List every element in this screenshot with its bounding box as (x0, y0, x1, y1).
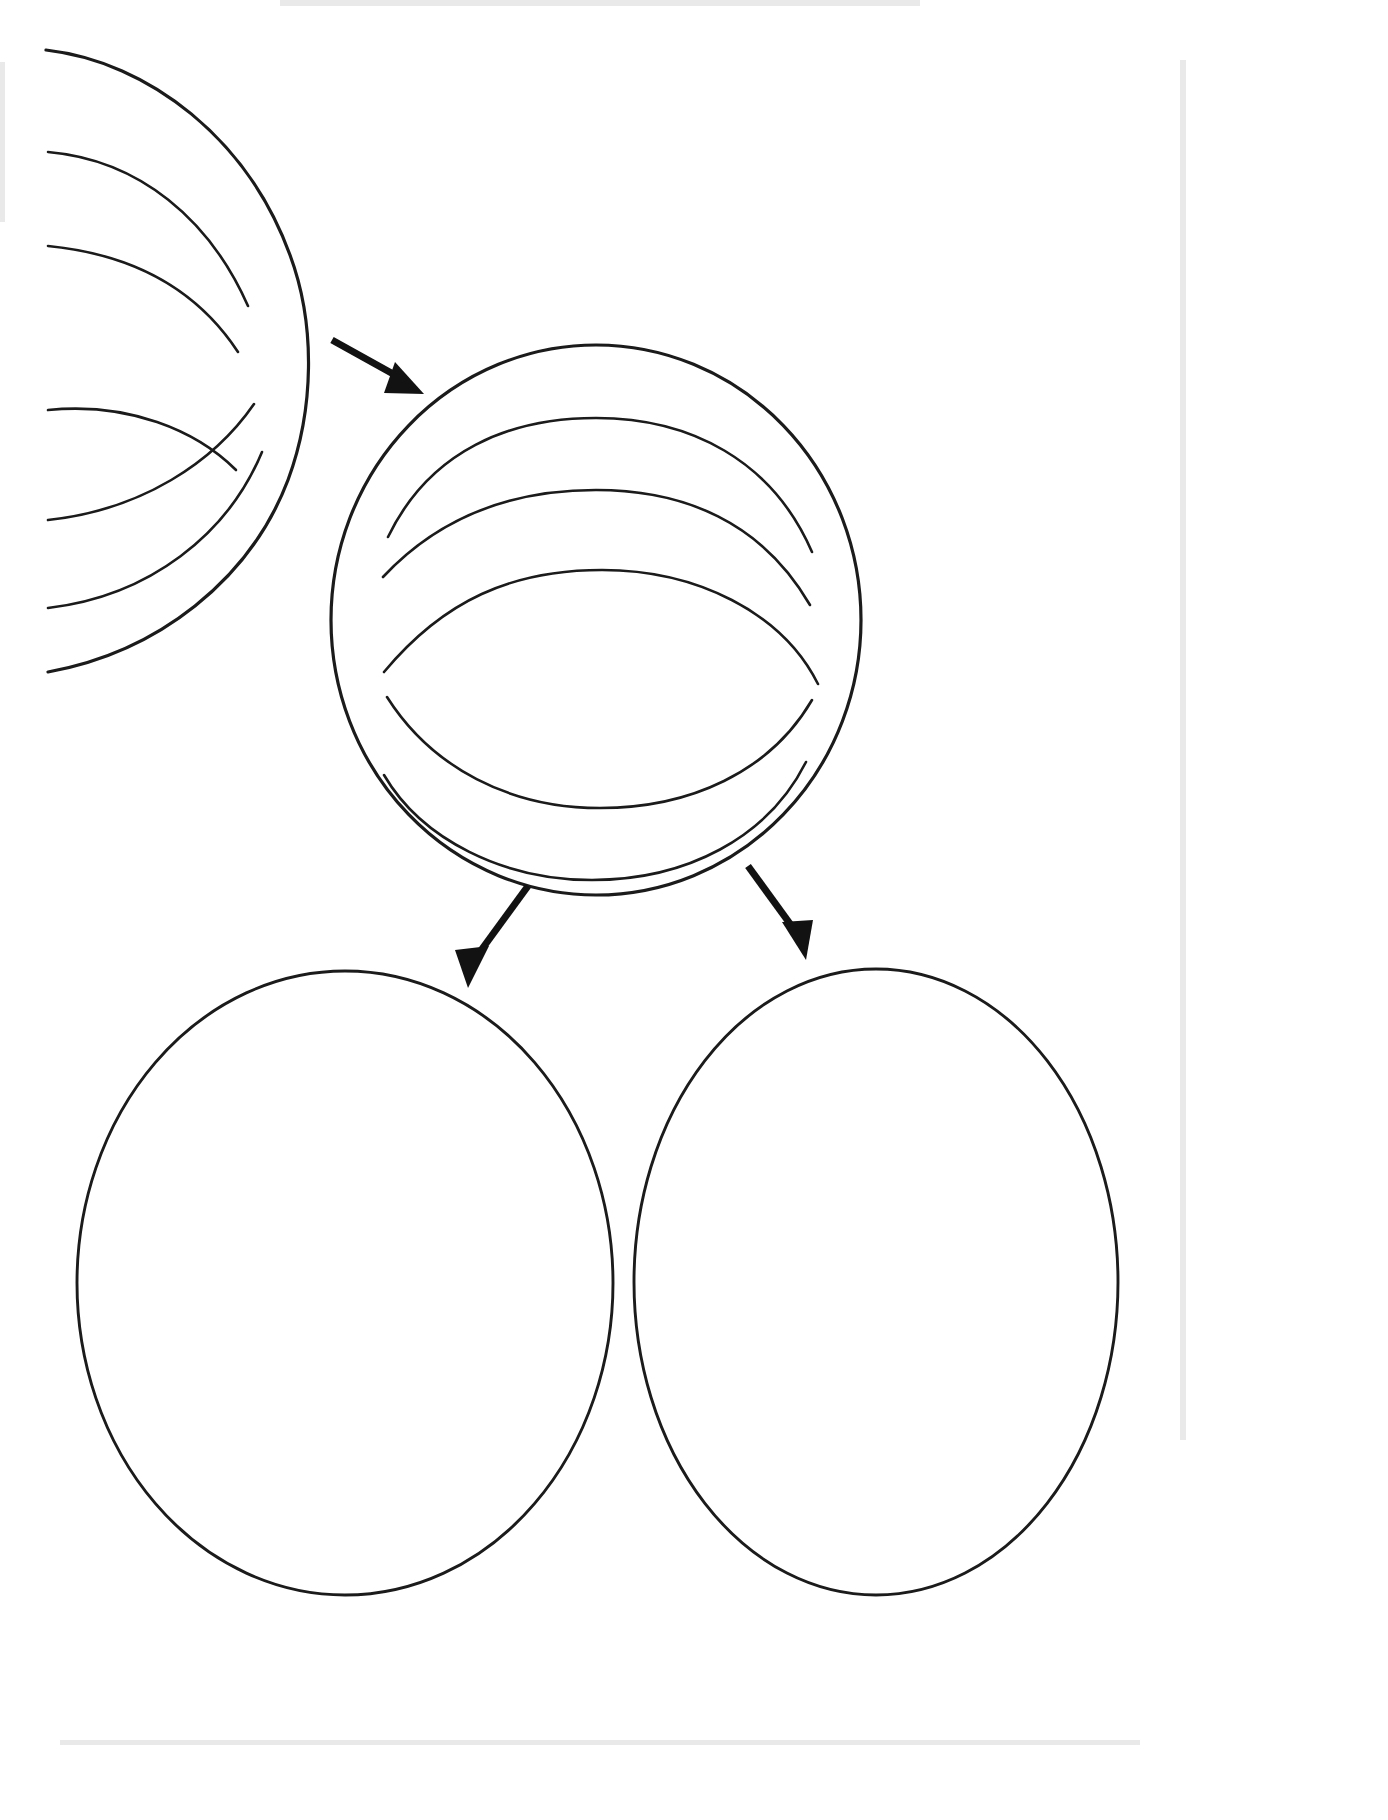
cell-division-diagram (0, 0, 1388, 1820)
scan-edge-bottom (60, 1740, 1140, 1745)
page-background (0, 0, 1388, 1820)
scan-edge-right (1180, 60, 1186, 1440)
diagram-canvas (0, 0, 1388, 1820)
scan-edge-top (280, 0, 920, 6)
scan-edge-left (0, 62, 5, 222)
